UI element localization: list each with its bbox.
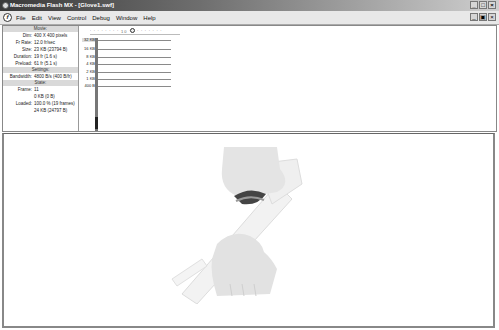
info-row-preload: Preload:61 fr (5.1 s) [3, 60, 78, 67]
menu-file[interactable]: File [16, 15, 26, 21]
minimize-button[interactable]: _ [470, 1, 478, 9]
doc-close-button[interactable]: × [488, 13, 496, 21]
y-label-32kb: 32 KB [82, 38, 95, 42]
info-row-loaded-size: 24 KB (24797 B) [3, 107, 78, 114]
maximize-button[interactable]: □ [479, 1, 487, 9]
close-button[interactable]: × [488, 1, 496, 9]
info-row-frame: Frame:11 [3, 86, 78, 93]
menu-control[interactable]: Control [67, 15, 86, 21]
y-label-8kb: 8 KB [82, 55, 95, 59]
glove-animation-graphic [162, 144, 322, 304]
grid-line [96, 40, 171, 41]
title-bar: Macromedia Flash MX - [Glove1.swf] _ □ × [0, 0, 499, 11]
y-label-16kb: 16 KB [82, 47, 95, 51]
grid-line [96, 49, 171, 50]
grid-line [96, 57, 171, 58]
menu-edit[interactable]: Edit [32, 15, 42, 21]
playhead-marker[interactable] [130, 28, 135, 33]
info-row-duration: Duration:19 fr (1.6 s) [3, 53, 78, 60]
profiler-info: Movie: Dim:400 X 400 pixels Fr Rate:12.0… [3, 26, 79, 131]
info-row-dim: Dim:400 X 400 pixels [3, 32, 78, 39]
menu-view[interactable]: View [48, 15, 61, 21]
movie-stage[interactable] [2, 133, 495, 328]
menu-window[interactable]: Window [116, 15, 137, 21]
info-row-loaded: Loaded:100.0 % (19 frames) [3, 100, 78, 107]
y-label-1kb: 1 KB [82, 77, 95, 81]
flash-doc-icon[interactable]: f [3, 13, 12, 22]
grid-line [96, 72, 171, 73]
y-label-400b: 400 B [82, 84, 95, 88]
y-label-2kb: 2 KB [82, 70, 95, 74]
menu-help[interactable]: Help [143, 15, 155, 21]
frame-size-bar[interactable] [95, 38, 98, 131]
bandwidth-graph: ' ' ' ' ' ' ' ' 10 ' ' ' ' ' ' ' ' ' 32 … [80, 26, 496, 131]
doc-minimize-button[interactable]: _ [470, 13, 478, 21]
info-row-size: Size:23 KB (23794 B) [3, 46, 78, 53]
grid-line [96, 64, 171, 65]
bandwidth-profiler: Movie: Dim:400 X 400 pixels Fr Rate:12.0… [2, 25, 497, 132]
window-title: Macromedia Flash MX - [Glove1.swf] [10, 2, 114, 8]
menu-bar: f File Edit View Control Debug Window He… [0, 11, 499, 25]
info-row-frame-size: 0 KB (0 B) [3, 93, 78, 100]
y-label-4kb: 4 KB [82, 62, 95, 66]
flash-app-icon [2, 2, 9, 9]
info-row-frame-rate: Fr Rate:12.0 fr/sec [3, 39, 78, 46]
frame-ruler[interactable]: ' ' ' ' ' ' ' ' 10 ' ' ' ' ' ' ' ' ' [90, 29, 180, 35]
frame-data-block [95, 117, 98, 129]
menu-debug[interactable]: Debug [92, 15, 110, 21]
doc-restore-button[interactable]: ▣ [479, 13, 487, 21]
info-row-bandwidth: Bandwidth:4800 B/s (400 B/fr) [3, 73, 78, 80]
grid-line [96, 86, 171, 87]
grid-line [96, 79, 171, 80]
